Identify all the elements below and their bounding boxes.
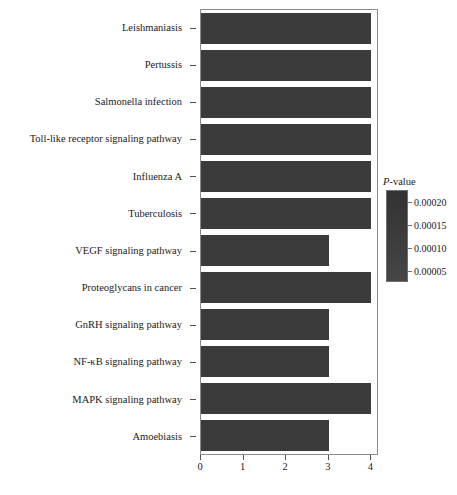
bar	[201, 50, 371, 82]
colorbar-tick	[408, 225, 412, 226]
colorbar-tick-label: 0.00005	[414, 265, 447, 276]
colorbar-tick	[408, 248, 412, 249]
bar-row	[201, 417, 377, 454]
y-axis-label: Proteoglycans in cancer	[0, 269, 186, 306]
bar	[201, 235, 329, 267]
kegg-enrichment-bar-chart: LeishmaniasisPertussisSalmonella infecti…	[0, 0, 457, 495]
bar-row	[201, 10, 377, 47]
colorbar-tick-label: 0.00015	[414, 219, 447, 230]
y-axis-tick	[190, 65, 196, 66]
bar-row	[201, 195, 377, 232]
y-axis-label: Tuberculosis	[0, 195, 186, 232]
y-axis-tick	[190, 102, 196, 103]
y-axis-label: Toll-like receptor signaling pathway	[0, 121, 186, 158]
bar-row	[201, 306, 377, 343]
y-axis-tick	[190, 325, 196, 326]
bar-row	[201, 47, 377, 84]
legend-body: 0.000200.000150.000100.00005	[383, 190, 457, 282]
x-axis-tick	[243, 455, 244, 460]
bar	[201, 383, 371, 415]
colorbar-tick	[408, 202, 412, 203]
pvalue-colorbar-legend: P-value 0.000200.000150.000100.00005	[383, 176, 457, 282]
x-axis-tick-label: 1	[240, 461, 245, 472]
y-axis-tick	[190, 28, 196, 29]
x-axis-tick-label: 4	[368, 461, 373, 472]
y-axis-label: NF-κB signaling pathway	[0, 344, 186, 381]
y-axis-label: MAPK signaling pathway	[0, 381, 186, 418]
colorbar-tick-label: 0.00020	[414, 196, 447, 207]
y-axis-tick	[190, 139, 196, 140]
y-axis-tick	[190, 176, 196, 177]
bar-series	[201, 10, 377, 454]
bar	[201, 309, 329, 341]
bar	[201, 13, 371, 45]
bar-row	[201, 158, 377, 195]
bar	[201, 87, 371, 119]
bar-row	[201, 380, 377, 417]
y-axis-tick	[190, 399, 196, 400]
bar-row	[201, 121, 377, 158]
y-axis-tick	[190, 436, 196, 437]
colorbar-tick-label: 0.00010	[414, 242, 447, 253]
bar	[201, 272, 371, 304]
y-axis-label: Pertussis	[0, 46, 186, 83]
y-axis-label: Influenza A	[0, 158, 186, 195]
y-axis-label: VEGF signaling pathway	[0, 232, 186, 269]
x-axis-tick	[200, 455, 201, 460]
y-axis-category-labels: LeishmaniasisPertussisSalmonella infecti…	[0, 9, 186, 455]
x-axis-tick	[370, 455, 371, 460]
y-axis-tick	[190, 213, 196, 214]
bar-row	[201, 232, 377, 269]
x-axis-tick	[328, 455, 329, 460]
plot-panel	[200, 9, 378, 455]
legend-title-suffix: -value	[389, 176, 415, 187]
x-axis-tick-label: 0	[197, 461, 202, 472]
y-axis-label: Leishmaniasis	[0, 9, 186, 46]
y-axis-label: Salmonella infection	[0, 83, 186, 120]
y-axis-tick	[190, 288, 196, 289]
colorbar-tick	[408, 271, 412, 272]
y-axis-tick	[190, 362, 196, 363]
cropped-caption	[0, 489, 457, 495]
bar	[201, 420, 329, 452]
bar	[201, 161, 371, 193]
bar-row	[201, 84, 377, 121]
x-axis-tick	[285, 455, 286, 460]
bar	[201, 124, 371, 156]
y-axis-label: Amoebiasis	[0, 418, 186, 455]
x-axis-tick-label: 2	[283, 461, 288, 472]
bar	[201, 198, 371, 230]
bar-row	[201, 269, 377, 306]
y-axis-label: GnRH signaling pathway	[0, 306, 186, 343]
legend-title: P-value	[383, 176, 457, 187]
bar-row	[201, 343, 377, 380]
bar	[201, 346, 329, 378]
colorbar-gradient	[386, 190, 408, 282]
x-axis: 01234	[200, 455, 378, 481]
x-axis-tick-label: 3	[325, 461, 330, 472]
y-axis-tick	[190, 251, 196, 252]
